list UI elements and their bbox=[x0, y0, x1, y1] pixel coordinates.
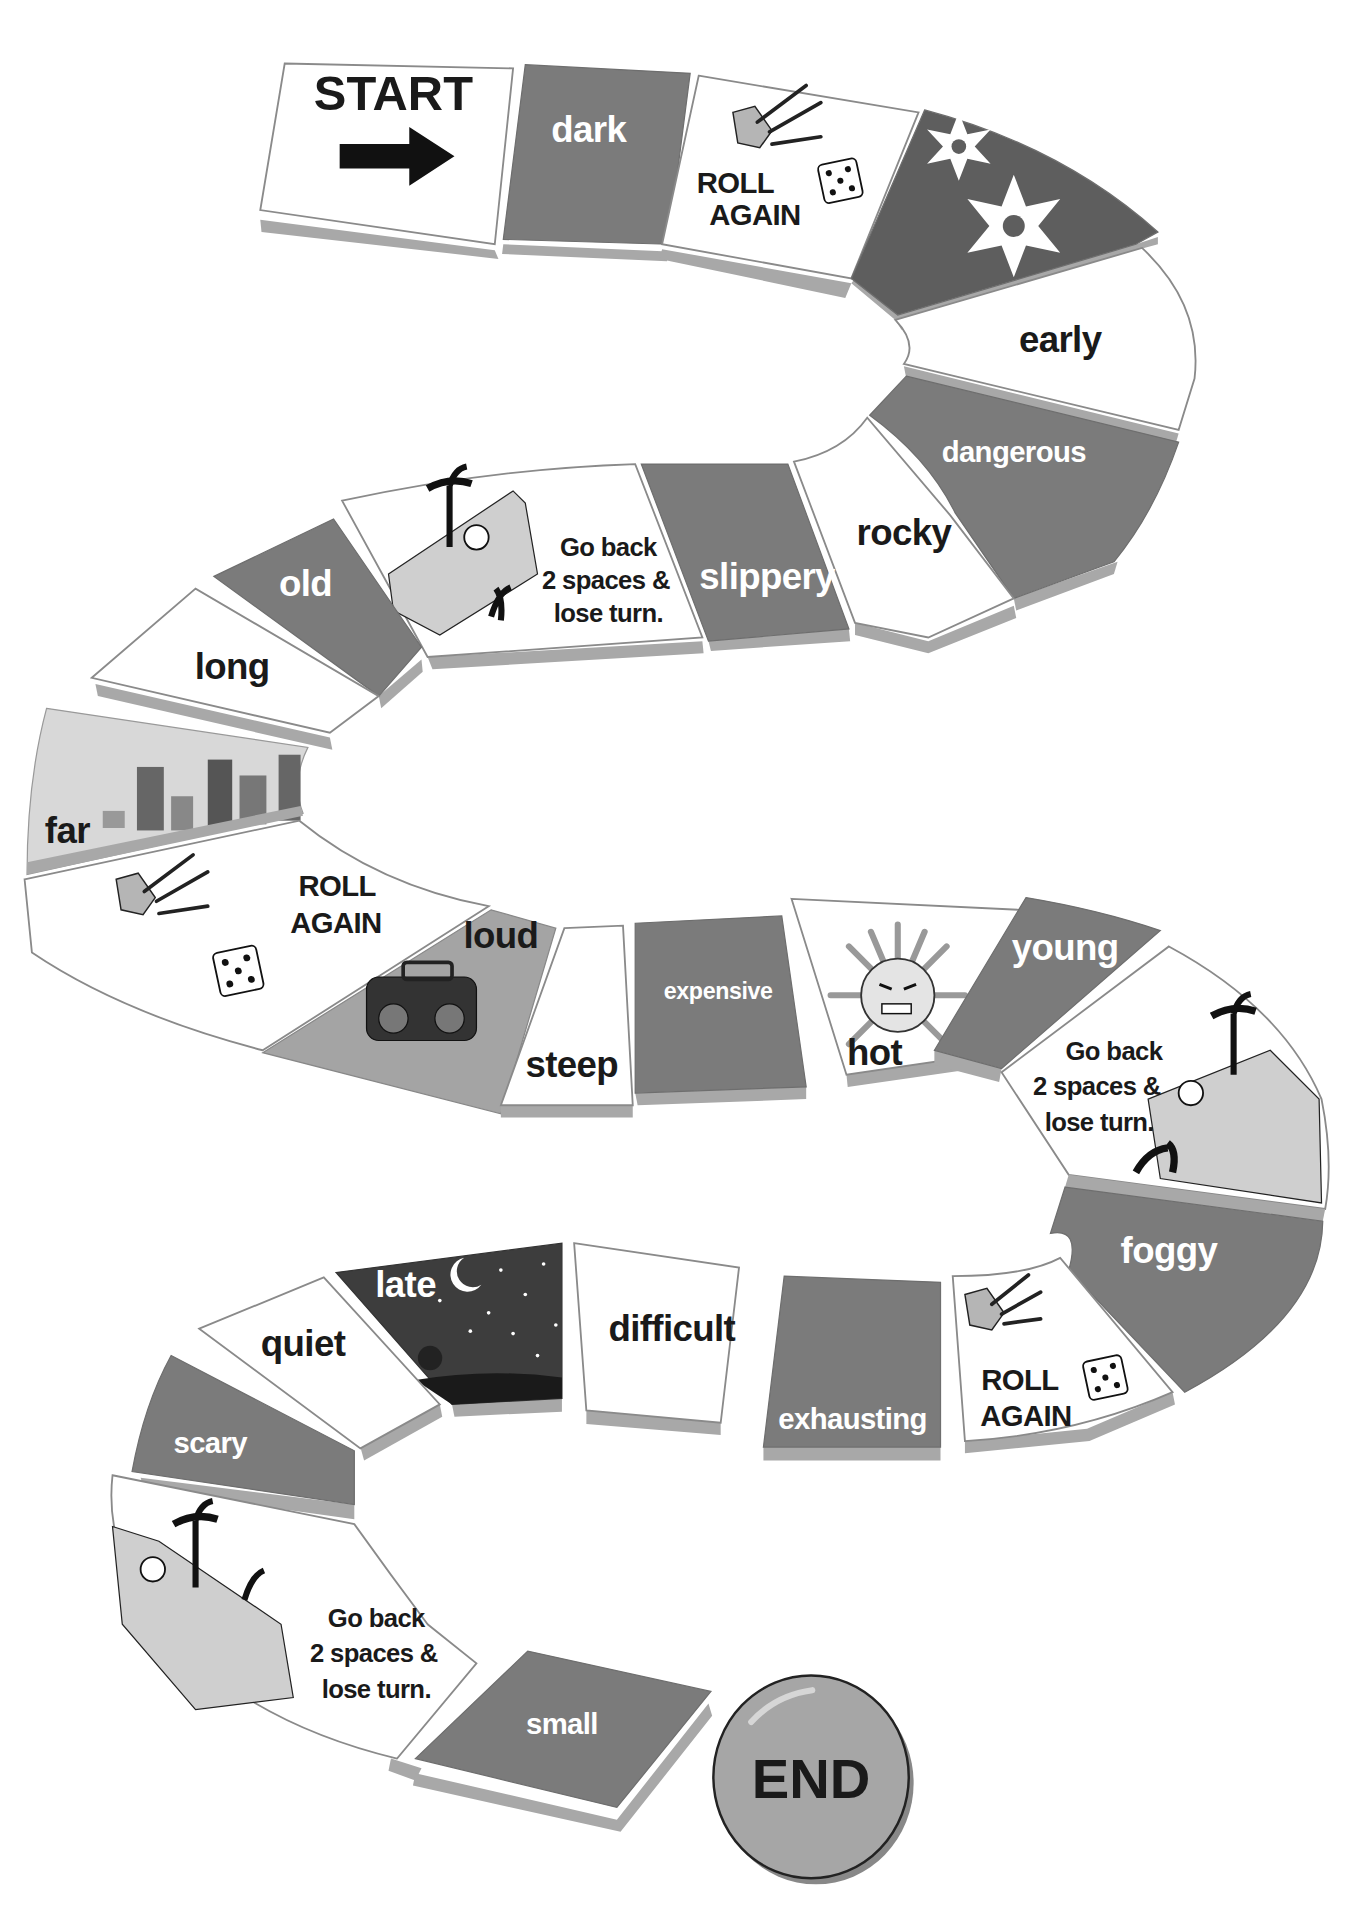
tile-expensive[interactable]: expensive bbox=[635, 916, 806, 1105]
game-board: START dark ROLL AGAIN bbox=[0, 0, 1362, 1921]
tile-label-line1: Go back bbox=[328, 1604, 426, 1632]
tile-label: steep bbox=[525, 1044, 618, 1085]
tile-exhausting[interactable]: exhausting bbox=[763, 1276, 940, 1460]
tile-label: young bbox=[1012, 927, 1119, 968]
tile-label-line2: 2 spaces & bbox=[1033, 1072, 1161, 1100]
tile-label: quiet bbox=[261, 1323, 346, 1364]
tile-label-line1: ROLL bbox=[981, 1363, 1058, 1396]
tile-go-back[interactable]: Go back 2 spaces & lose turn. bbox=[111, 1475, 476, 1780]
tile-label: late bbox=[375, 1264, 436, 1305]
tile-label: early bbox=[1019, 319, 1103, 360]
end-button[interactable]: END bbox=[713, 1676, 913, 1885]
tile-label: long bbox=[195, 646, 270, 687]
tile-label: exhausting bbox=[778, 1402, 927, 1435]
tile-label: loud bbox=[463, 915, 538, 956]
tile-label: rocky bbox=[857, 512, 953, 553]
tile-label-line2: 2 spaces & bbox=[542, 566, 670, 594]
tile-label-line2: AGAIN bbox=[290, 906, 381, 939]
tile-dark[interactable]: dark bbox=[502, 65, 690, 262]
tile-label-line2: AGAIN bbox=[980, 1399, 1071, 1432]
tile-label-line3: lose turn. bbox=[554, 599, 663, 627]
tile-label: hot bbox=[847, 1032, 903, 1073]
tile-label: scary bbox=[173, 1426, 248, 1459]
start-label: START bbox=[314, 66, 473, 120]
tile-label-line1: ROLL bbox=[697, 166, 774, 199]
tile-difficult[interactable]: difficult bbox=[574, 1243, 739, 1435]
tile-label-line1: ROLL bbox=[299, 869, 376, 902]
tile-label: dangerous bbox=[942, 435, 1087, 468]
tile-label-line1: Go back bbox=[1066, 1037, 1164, 1065]
tile-label-line3: lose turn. bbox=[1045, 1108, 1154, 1136]
tile-label: difficult bbox=[608, 1308, 735, 1349]
tile-label: dark bbox=[551, 109, 627, 150]
start-tile[interactable]: START bbox=[260, 64, 513, 259]
tile-label: small bbox=[526, 1707, 598, 1740]
tile-label: slippery bbox=[699, 556, 836, 597]
tile-label: old bbox=[279, 563, 332, 604]
tile-label: far bbox=[45, 810, 90, 851]
end-label: END bbox=[752, 1747, 871, 1810]
tile-label: foggy bbox=[1121, 1230, 1219, 1271]
tile-label-line3: lose turn. bbox=[322, 1675, 431, 1703]
tile-label-line2: 2 spaces & bbox=[310, 1639, 438, 1667]
tile-label-line2: AGAIN bbox=[709, 198, 800, 231]
tile-label-line1: Go back bbox=[560, 533, 658, 561]
tile-label: expensive bbox=[664, 978, 773, 1004]
